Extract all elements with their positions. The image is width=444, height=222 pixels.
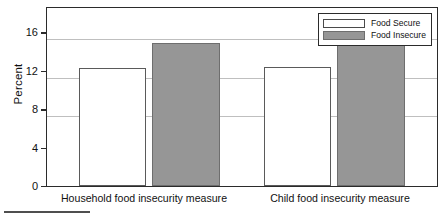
- y-tick-label-4: 4: [32, 142, 38, 154]
- plot-inner: 0 4 8 12 16 Food Secure: [47, 8, 437, 186]
- legend-label-food-secure: Food Secure: [371, 19, 420, 28]
- y-tick-label-8: 8: [32, 103, 38, 115]
- y-tick-mark-0: [41, 186, 47, 187]
- y-tick-mark-12: [41, 71, 47, 72]
- bar-chart-figure: Percent 0 4: [0, 0, 444, 222]
- bar-household-food-insecure: [152, 43, 219, 186]
- x-axis-label-child: Child food insecurity measure: [242, 192, 438, 204]
- y-tick-label-12: 12: [26, 65, 38, 77]
- y-tick-label-0: 0: [32, 180, 38, 192]
- y-tick-mark-8: [41, 109, 47, 110]
- legend-label-food-insecure: Food Insecure: [371, 31, 426, 40]
- plot-area: 0 4 8 12 16 Food Secure: [46, 7, 438, 187]
- legend-swatch-food-secure: [323, 19, 365, 28]
- bar-child-food-insecure: [337, 40, 404, 186]
- bar-child-food-secure: [264, 67, 331, 186]
- bar-household-food-secure: [79, 68, 146, 186]
- footnote-separator-rule: [4, 211, 90, 213]
- legend-swatch-food-insecure: [323, 31, 365, 40]
- y-tick-label-16: 16: [26, 26, 38, 38]
- y-axis-title: Percent: [12, 44, 24, 124]
- legend-item-food-secure: Food Secure: [323, 18, 426, 29]
- legend-item-food-insecure: Food Insecure: [323, 30, 426, 41]
- y-tick-mark-4: [41, 148, 47, 149]
- x-axis-label-household: Household food insecurity measure: [46, 192, 242, 204]
- y-tick-mark-16: [41, 32, 47, 33]
- chart-legend: Food Secure Food Insecure: [318, 13, 432, 46]
